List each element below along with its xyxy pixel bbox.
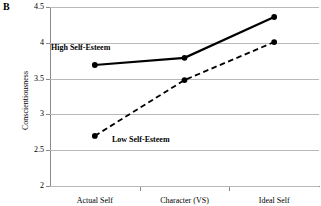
- series-layer: [0, 0, 321, 206]
- series-label-low-self-esteem: Low Self-Esteem: [112, 135, 170, 144]
- figure-panel-b: B Conscientiousness 22.533.544.5 Actual …: [0, 0, 321, 206]
- data-point-marker: [182, 77, 188, 83]
- series-label-high-self-esteem: High Self-Esteem: [51, 43, 110, 52]
- data-point-marker: [92, 62, 98, 68]
- data-point-marker: [271, 39, 277, 45]
- data-point-marker: [92, 133, 98, 139]
- data-point-marker: [182, 55, 188, 61]
- data-point-marker: [271, 14, 277, 20]
